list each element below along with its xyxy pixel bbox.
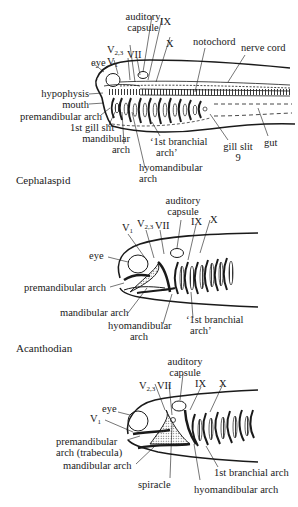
label-hyomandibular-arch: hyomandibular arch [194, 484, 278, 495]
label-v23: V2,3 [139, 380, 155, 395]
label-gut: gut [264, 137, 277, 148]
label-line: arch [108, 331, 170, 342]
label-vii: VII [155, 220, 170, 231]
label-premandibular-arch: premandibular arch (trabecula) [56, 436, 122, 458]
label-premandibular-arch: premandibular arch [0, 111, 102, 122]
label-line: hyomandibular [139, 162, 203, 173]
label-x: X [210, 214, 218, 225]
label-premandibular-arch: premandibular arch [24, 282, 106, 293]
label-line: arch’ [186, 325, 243, 336]
label-line: hyomandibular [108, 320, 170, 331]
label-auditory-capsule: auditory capsule [160, 356, 210, 378]
diagram-drawing [0, 0, 298, 507]
label-vii: VII [127, 49, 142, 60]
label-mandibular-arch: mandibular arch [63, 460, 132, 471]
label-v23: V2,3 [137, 218, 153, 233]
label-ix: IX [160, 16, 171, 27]
label-line: ‘1st branchial [186, 314, 243, 325]
label-line: mandibular [80, 133, 130, 144]
label-text: V [139, 380, 147, 391]
label-line: auditory [160, 356, 210, 367]
label-sub: 2,3 [145, 223, 154, 231]
label-sub: 1 [98, 418, 102, 426]
label-x: X [166, 38, 174, 49]
label-text: V [137, 218, 145, 229]
label-text: V [90, 413, 98, 424]
label-text: V [107, 56, 115, 67]
label-hyomandibular-arch: hyomandibular arch [139, 162, 203, 184]
label-line: arch’ [150, 147, 207, 158]
label-ix: IX [195, 378, 206, 389]
label-v1: V1 [107, 56, 118, 71]
label-eye: eye [89, 250, 104, 261]
label-nerve-cord: nerve cord [241, 42, 286, 53]
label-mandibular-arch: mandibular arch [80, 133, 130, 155]
label-line: capsule [160, 367, 210, 378]
label-ix: IX [191, 216, 202, 227]
caption-acanthodian: Acanthodian [16, 342, 72, 354]
label-notochord: notochord [193, 36, 236, 47]
label-line: arch (trabecula) [56, 447, 122, 458]
label-eye: eye [102, 403, 117, 414]
label-1st-gill-slit: 1st gill slit [70, 122, 114, 133]
label-line: 9 [218, 152, 258, 163]
label-hypophysis: hypophysis [0, 88, 89, 99]
caption-cephalaspid: Cephalaspid [16, 174, 70, 186]
label-x: X [219, 378, 227, 389]
label-1st-branchial-arch: 1st branchial arch [214, 467, 289, 478]
label-line: ‘1st branchial [150, 136, 207, 147]
label-text: V [122, 222, 130, 233]
label-line: auditory [158, 195, 208, 206]
label-spiracle: spiracle [138, 479, 171, 490]
label-line: premandibular [56, 436, 122, 447]
label-text: V [107, 44, 115, 55]
label-gill-slit-9: gill slit 9 [218, 141, 258, 163]
label-line: arch [80, 144, 130, 155]
label-v1: V1 [90, 413, 101, 428]
label-1st-branchial-arch: ‘1st branchial arch’ [150, 136, 207, 158]
label-line: gill slit [218, 141, 258, 152]
label-sub: 1 [130, 227, 134, 235]
label-sub: 1 [115, 61, 119, 69]
label-sub: 2,3 [147, 385, 156, 393]
label-eye: eye [91, 57, 106, 68]
label-mandibular-arch: mandibular arch [60, 307, 129, 318]
label-1st-branchial-arch: ‘1st branchial arch’ [186, 314, 243, 336]
label-line: arch [139, 173, 203, 184]
label-auditory-capsule: auditory capsule [158, 195, 208, 217]
label-vii: VII [157, 380, 172, 391]
label-v1: V1 [122, 222, 133, 237]
label-hyomandibular-arch: hyomandibular arch [108, 320, 170, 342]
label-mouth: mouth [0, 99, 89, 110]
